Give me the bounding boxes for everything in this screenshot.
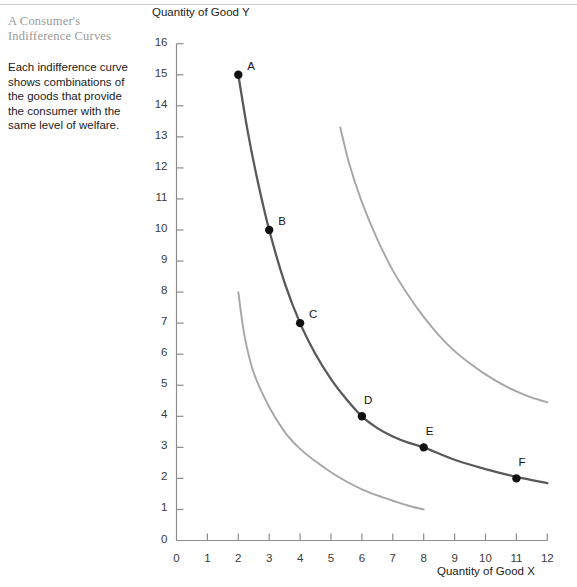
point-label-C: C xyxy=(309,308,317,320)
y-tick-label-1: 1 xyxy=(146,501,168,513)
x-tick-label-11: 11 xyxy=(506,552,526,564)
y-tick-label-9: 9 xyxy=(146,253,168,265)
y-axis-title: Quantity of Good Y xyxy=(152,6,250,18)
indifference-curve-chart: Quantity of Good Y Quantity of Good X 01… xyxy=(0,0,577,587)
y-tick-label-16: 16 xyxy=(146,36,168,48)
y-tick-label-0: 0 xyxy=(146,533,168,545)
x-tick-label-1: 1 xyxy=(197,552,217,564)
chart-svg xyxy=(0,0,577,587)
point-label-D: D xyxy=(364,394,372,406)
point-label-A: A xyxy=(247,60,255,72)
data-point-A[interactable] xyxy=(234,71,242,79)
y-tick-label-11: 11 xyxy=(146,191,168,203)
data-point-F[interactable] xyxy=(512,474,520,482)
point-label-E: E xyxy=(426,425,434,437)
data-point-D[interactable] xyxy=(358,412,366,420)
x-tick-label-6: 6 xyxy=(352,552,372,564)
curves-group xyxy=(238,75,547,510)
y-tick-label-13: 13 xyxy=(146,129,168,141)
x-tick-label-5: 5 xyxy=(321,552,341,564)
point-label-F: F xyxy=(518,456,525,468)
y-tick-label-2: 2 xyxy=(146,470,168,482)
x-tick-label-9: 9 xyxy=(445,552,465,564)
x-tick-label-10: 10 xyxy=(476,552,496,564)
y-tick-label-10: 10 xyxy=(146,222,168,234)
axes-group xyxy=(177,44,548,541)
y-tick-label-7: 7 xyxy=(146,315,168,327)
x-tick-label-12: 12 xyxy=(537,552,557,564)
x-tick-label-3: 3 xyxy=(259,552,279,564)
y-tick-label-4: 4 xyxy=(146,408,168,420)
y-tick-label-12: 12 xyxy=(146,160,168,172)
upper-indifference-curve xyxy=(340,128,547,403)
x-axis-title: Quantity of Good X xyxy=(437,565,535,577)
x-tick-label-4: 4 xyxy=(290,552,310,564)
data-point-B[interactable] xyxy=(265,226,273,234)
y-tick-label-3: 3 xyxy=(146,439,168,451)
lower-indifference-curve xyxy=(238,292,423,509)
x-tick-label-0: 0 xyxy=(167,552,187,564)
y-tick-label-14: 14 xyxy=(146,98,168,110)
y-tick-label-15: 15 xyxy=(146,67,168,79)
y-tick-label-5: 5 xyxy=(146,377,168,389)
y-tick-label-6: 6 xyxy=(146,346,168,358)
y-tick-label-8: 8 xyxy=(146,284,168,296)
x-tick-label-2: 2 xyxy=(228,552,248,564)
data-point-E[interactable] xyxy=(420,443,428,451)
x-tick-label-7: 7 xyxy=(383,552,403,564)
main-indifference-curve xyxy=(238,75,547,483)
point-label-B: B xyxy=(278,215,286,227)
x-tick-label-8: 8 xyxy=(414,552,434,564)
data-point-C[interactable] xyxy=(296,319,304,327)
